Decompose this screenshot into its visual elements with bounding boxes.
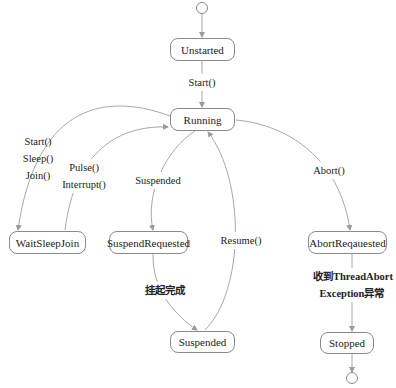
label-abort-exception: 收到ThreadAbort Exception异常 <box>313 268 391 302</box>
label-from-waitsleepjoin: Pulse() Interrupt() <box>62 159 106 193</box>
label-line: Join() <box>18 167 58 184</box>
label-line: Pulse() <box>62 159 106 176</box>
label-abort: Abort() <box>312 162 346 179</box>
label-line: 收到ThreadAbort <box>313 268 391 285</box>
state-stopped[interactable]: Stopped <box>320 332 374 354</box>
edge-resume <box>205 132 235 330</box>
state-waitsleepjoin[interactable]: WaitSleepJoin <box>9 231 86 254</box>
label-start: Start() <box>184 74 220 91</box>
state-running[interactable]: Running <box>170 108 235 131</box>
state-suspended[interactable]: Suspended <box>170 331 235 353</box>
label-line: Interrupt() <box>62 176 106 193</box>
state-abortrequested[interactable]: AbortReqauested <box>308 231 387 254</box>
state-suspendrequested[interactable]: SuspendRequested <box>109 231 188 254</box>
label-line: Start() <box>18 133 58 150</box>
state-unstarted[interactable]: Unstarted <box>170 38 235 61</box>
final-state-icon <box>346 372 358 384</box>
label-resume: Resume() <box>219 232 263 249</box>
label-suspend-done: 挂起完成 <box>143 282 187 299</box>
label-to-waitsleepjoin: Start() Sleep() Join() <box>18 133 58 184</box>
initial-state-icon <box>196 2 208 14</box>
label-line: Exception异常 <box>313 285 391 302</box>
label-line: Sleep() <box>18 150 58 167</box>
label-suspend: Suspended <box>134 172 182 189</box>
